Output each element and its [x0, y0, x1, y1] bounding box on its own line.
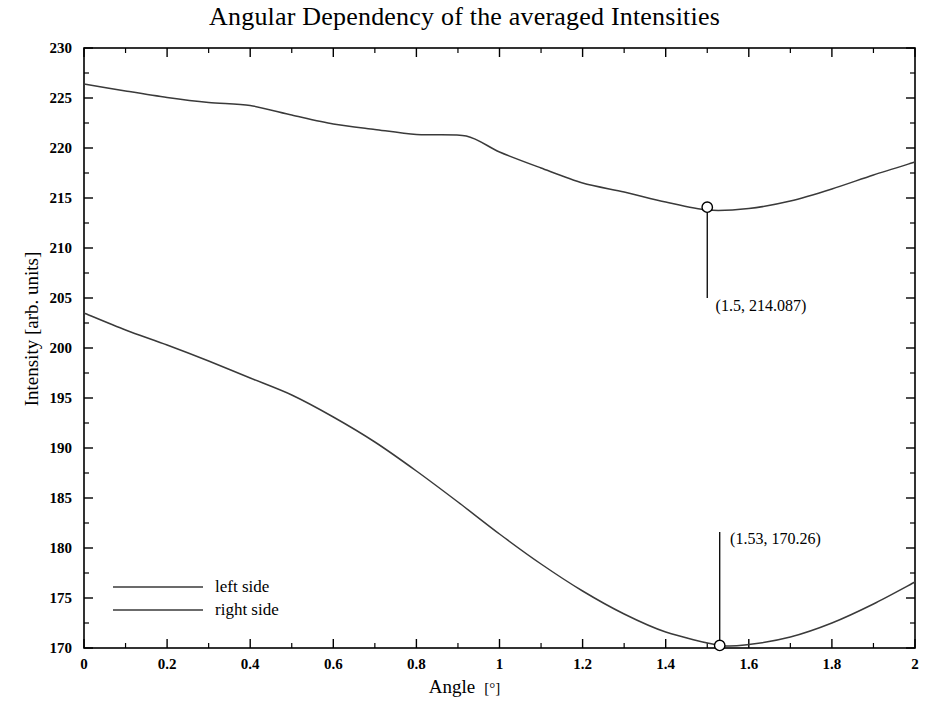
annotation-marker-icon — [715, 640, 725, 650]
legend-item-label: right side — [215, 600, 279, 620]
series-line-2 — [84, 313, 915, 646]
y-tick-label: 170 — [26, 640, 72, 657]
legend-lines — [113, 587, 203, 610]
x-tick-label: 1.6 — [739, 656, 758, 673]
x-axis-unit: [°] — [484, 680, 500, 696]
x-tick-label: 1 — [496, 656, 504, 673]
annotation-label: (1.53, 170.26) — [730, 530, 821, 548]
series-line-1 — [84, 84, 915, 210]
plot-area — [0, 0, 929, 716]
x-tick-label: 1.8 — [823, 656, 842, 673]
plot-frame — [84, 48, 915, 648]
x-tick-label: 0.4 — [241, 656, 260, 673]
x-axis-label: Angle[°] — [0, 676, 929, 698]
axis-ticks — [84, 48, 915, 648]
x-tick-label: 2 — [911, 656, 919, 673]
y-axis-label: Intensity [arb. units] — [21, 169, 43, 489]
x-tick-label: 0.6 — [324, 656, 343, 673]
y-tick-label: 185 — [26, 490, 72, 507]
y-tick-label: 225 — [26, 90, 72, 107]
x-axis-label-text: Angle — [429, 676, 475, 697]
y-tick-label: 180 — [26, 540, 72, 557]
annotation-marker-icon — [702, 202, 712, 212]
chart-figure: Angular Dependency of the averaged Inten… — [0, 0, 929, 716]
data-series — [84, 84, 915, 646]
x-tick-label: 0.8 — [407, 656, 426, 673]
y-tick-label: 220 — [26, 140, 72, 157]
x-tick-label: 0 — [80, 656, 88, 673]
y-tick-label: 175 — [26, 590, 72, 607]
x-tick-label: 1.4 — [656, 656, 675, 673]
y-tick-label: 230 — [26, 40, 72, 57]
annotation-label: (1.5, 214.087) — [716, 297, 807, 315]
legend-item-label: left side — [215, 577, 269, 597]
annotations — [702, 202, 725, 651]
x-tick-label: 1.2 — [573, 656, 592, 673]
x-tick-label: 0.2 — [158, 656, 177, 673]
